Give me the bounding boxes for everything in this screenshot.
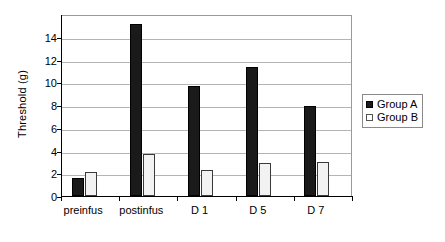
- bars-layer: [63, 16, 351, 196]
- x-axis-tick-label: D 7: [307, 204, 324, 216]
- y-axis-line: [61, 15, 62, 197]
- x-axis-tick-mark: [61, 197, 62, 201]
- x-axis-tick-mark: [119, 197, 120, 201]
- bar-group-a-d7: [304, 106, 316, 196]
- y-axis-tick-mark: [57, 38, 61, 39]
- y-axis-tick-label: 6: [31, 124, 57, 134]
- x-axis-tick-label: D 1: [191, 204, 208, 216]
- x-axis-tick-mark: [177, 197, 178, 201]
- bar-group-b-d5: [259, 163, 271, 196]
- y-axis-tick-mark: [57, 129, 61, 130]
- y-axis-tick-mark: [57, 106, 61, 107]
- open-square-icon: [366, 114, 373, 121]
- y-axis-tick-label: 12: [31, 56, 57, 66]
- y-axis-tick-label: 14: [31, 33, 57, 43]
- bar-group-a-d1: [188, 86, 200, 196]
- y-axis-tick-mark: [57, 61, 61, 62]
- legend-item-label: Group A: [377, 99, 417, 110]
- y-axis-tick-mark: [57, 197, 61, 198]
- y-axis-tick-label: 0: [31, 192, 57, 202]
- y-axis-tick-mark: [57, 152, 61, 153]
- chart-legend: Group AGroup B: [362, 94, 423, 128]
- y-axis-title: Threshold (g): [16, 44, 28, 164]
- x-axis-tick-label: postinfus: [119, 204, 163, 216]
- y-axis-tick-label: 2: [31, 169, 57, 179]
- x-axis-tick-label: D 5: [249, 204, 266, 216]
- x-axis-tick-mark: [352, 197, 353, 201]
- y-axis-tick-label: 4: [31, 147, 57, 157]
- y-axis-tick-mark: [57, 174, 61, 175]
- bar-group-b-postinfus: [143, 154, 155, 196]
- bar-group-b-d1: [201, 170, 213, 196]
- legend-item: Group A: [366, 98, 418, 111]
- bar-group-b-d7: [317, 162, 329, 196]
- legend-item-label: Group B: [377, 112, 418, 123]
- y-axis-tick-label: 8: [31, 101, 57, 111]
- bar-group-a-d5: [246, 67, 258, 196]
- bar-group-b-preinfus: [85, 172, 97, 196]
- y-axis-tick-mark: [57, 83, 61, 84]
- x-axis-tick-mark: [236, 197, 237, 201]
- x-axis-tick-mark: [294, 197, 295, 201]
- bar-group-a-postinfus: [130, 24, 142, 196]
- x-axis-tick-label: preinfus: [64, 204, 103, 216]
- legend-item: Group B: [366, 111, 418, 124]
- plot-area: [61, 15, 352, 197]
- y-axis-tick-labels: 02468101214: [28, 15, 57, 197]
- bar-group-a-preinfus: [72, 178, 84, 196]
- bar-chart: Threshold (g) 02468101214 preinfuspostin…: [0, 0, 445, 242]
- filled-square-icon: [366, 101, 373, 108]
- y-axis-tick-label: 10: [31, 78, 57, 88]
- x-axis-line: [61, 196, 353, 197]
